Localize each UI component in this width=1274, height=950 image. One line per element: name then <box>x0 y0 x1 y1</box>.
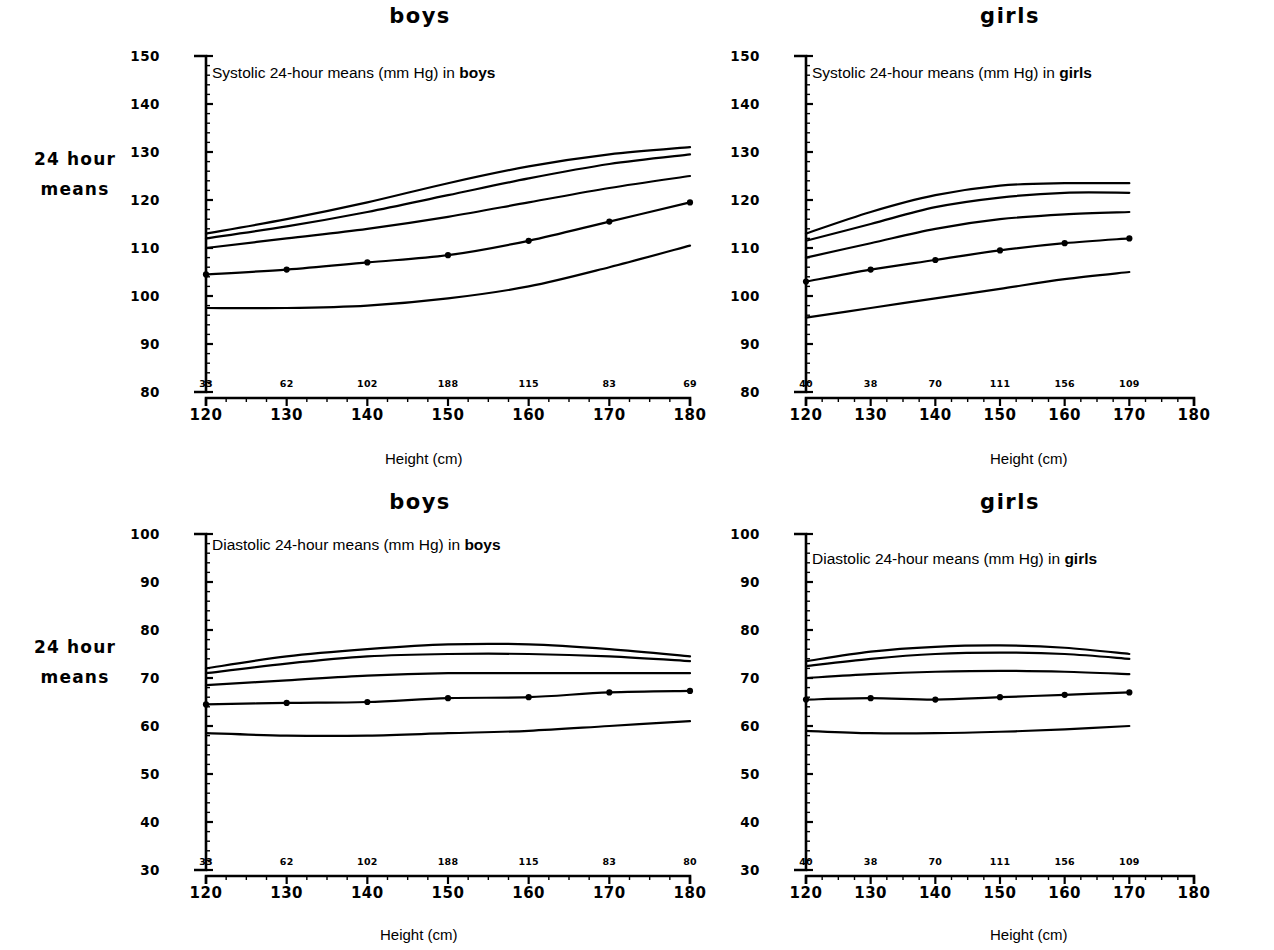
sample-size-label: 109 <box>1119 856 1139 867</box>
observed-median-point <box>526 238 532 244</box>
sample-size-label: 156 <box>1054 856 1074 867</box>
y-axis-tick-label: 100 <box>122 288 160 304</box>
observed-median-point <box>868 267 874 273</box>
x-axis-tick-label: 150 <box>984 406 1017 424</box>
sample-size-label: 33 <box>199 856 213 867</box>
y-axis-tick-label: 90 <box>722 574 760 590</box>
x-axis-tick-label: 170 <box>1113 406 1146 424</box>
sample-size-label: 62 <box>280 856 294 867</box>
y-axis-tick-label: 120 <box>722 192 760 208</box>
y-axis-tick-label: 30 <box>122 862 160 878</box>
x-axis-tick-label: 130 <box>854 884 887 902</box>
sample-size-label: 102 <box>357 378 377 389</box>
y-axis-tick-label: 70 <box>722 670 760 686</box>
percentile-curve-75th-percentile <box>806 212 1129 258</box>
observed-median-point <box>803 697 809 703</box>
x-axis-tick-label: 180 <box>1178 406 1211 424</box>
x-axis-tick-label: 160 <box>512 406 545 424</box>
chart-title-text: Diastolic 24-hour means (mm Hg) in <box>812 550 1064 567</box>
y-axis-tick-label: 150 <box>122 48 160 64</box>
chart-title-group: girls <box>1064 550 1097 567</box>
y-axis-tick-label: 30 <box>722 862 760 878</box>
sample-size-label: 156 <box>1054 378 1074 389</box>
sample-size-label: 40 <box>799 378 813 389</box>
x-axis-tick-label: 140 <box>919 884 952 902</box>
percentile-curve-5th-percentile <box>806 726 1129 733</box>
sample-size-label: 40 <box>799 856 813 867</box>
observed-median-point <box>932 697 938 703</box>
y-axis-tick-label: 60 <box>722 718 760 734</box>
sample-size-label: 188 <box>438 856 458 867</box>
sample-size-label: 115 <box>518 856 538 867</box>
percentile-curve-5th-percentile <box>806 272 1129 318</box>
chart-title-text: Systolic 24-hour means (mm Hg) in <box>212 64 459 81</box>
x-axis-tick-label: 150 <box>432 884 465 902</box>
sample-size-label: 70 <box>929 378 943 389</box>
y-axis-tick-label: 80 <box>722 622 760 638</box>
x-axis-tick-label: 130 <box>270 884 303 902</box>
x-axis-caption: Height (cm) <box>380 926 458 943</box>
observed-median-point <box>803 279 809 285</box>
blood-pressure-percentile-figure: boys girls boys girls 24 hour means 24 h… <box>0 0 1274 950</box>
y-axis-tick-label: 50 <box>122 766 160 782</box>
x-axis-tick-label: 160 <box>1048 406 1081 424</box>
x-axis-tick-label: 120 <box>790 406 823 424</box>
x-axis-caption: Height (cm) <box>385 450 463 467</box>
y-axis-line <box>194 56 206 392</box>
x-axis-tick-label: 160 <box>1048 884 1081 902</box>
y-axis-tick-label: 100 <box>722 526 760 542</box>
observed-median-point <box>445 252 451 258</box>
x-axis-tick-label: 130 <box>270 406 303 424</box>
chart-panel-diastolic-girls: Diastolic 24-hour means (mm Hg) in girls… <box>590 488 1274 950</box>
y-axis-tick-label: 110 <box>722 240 760 256</box>
chart-title-text: Diastolic 24-hour means (mm Hg) in <box>212 536 464 553</box>
sample-size-label: 62 <box>280 378 294 389</box>
x-axis-caption: Height (cm) <box>990 926 1068 943</box>
sample-size-label: 115 <box>518 378 538 389</box>
y-axis-tick-label: 50 <box>722 766 760 782</box>
percentile-curve-75th-percentile <box>806 671 1129 678</box>
observed-median-point <box>364 259 370 265</box>
observed-median-point <box>203 701 209 707</box>
y-axis-tick-label: 130 <box>122 144 160 160</box>
y-axis-tick-label: 80 <box>122 384 160 400</box>
sample-size-label: 188 <box>438 378 458 389</box>
x-axis-tick-label: 150 <box>432 406 465 424</box>
chart-title-group: boys <box>459 64 495 81</box>
chart-panel-systolic-girls: Systolic 24-hour means (mm Hg) in girls8… <box>590 0 1274 480</box>
observed-median-point <box>997 694 1003 700</box>
observed-median-point <box>932 257 938 263</box>
y-axis-tick-label: 100 <box>722 288 760 304</box>
observed-median-point <box>1126 235 1132 241</box>
observed-median-point <box>1126 689 1132 695</box>
observed-median-point <box>364 699 370 705</box>
y-axis-tick-label: 140 <box>722 96 760 112</box>
sample-size-label: 111 <box>990 856 1010 867</box>
sample-size-label: 38 <box>864 856 878 867</box>
observed-median-point <box>203 271 209 277</box>
y-axis-line <box>794 56 806 392</box>
observed-median-point <box>1062 240 1068 246</box>
x-axis-tick-label: 120 <box>790 884 823 902</box>
x-axis-tick-label: 180 <box>1178 884 1211 902</box>
sample-size-label: 38 <box>864 378 878 389</box>
sample-size-label: 33 <box>199 378 213 389</box>
observed-median-point <box>445 695 451 701</box>
x-axis-tick-label: 120 <box>190 406 223 424</box>
chart-title-systolic-boys: Systolic 24-hour means (mm Hg) in boys <box>212 64 495 82</box>
y-axis-tick-label: 80 <box>122 622 160 638</box>
y-axis-tick-label: 40 <box>122 814 160 830</box>
y-axis-tick-label: 140 <box>122 96 160 112</box>
percentile-curve-50th-percentile <box>806 238 1129 281</box>
observed-median-point <box>284 267 290 273</box>
observed-median-point <box>526 694 532 700</box>
sample-size-label: 70 <box>929 856 943 867</box>
sample-size-label: 109 <box>1119 378 1139 389</box>
chart-title-diastolic-girls: Diastolic 24-hour means (mm Hg) in girls <box>812 550 1097 568</box>
y-axis-tick-label: 110 <box>122 240 160 256</box>
y-axis-tick-label: 120 <box>122 192 160 208</box>
y-axis-tick-label: 130 <box>722 144 760 160</box>
observed-median-point <box>997 247 1003 253</box>
x-axis-tick-label: 170 <box>1113 884 1146 902</box>
x-axis-tick-label: 160 <box>512 884 545 902</box>
